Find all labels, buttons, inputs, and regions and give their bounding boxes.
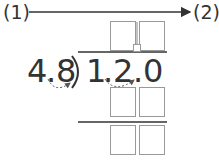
dividend-decimal-point-original: . bbox=[103, 55, 113, 87]
dividend-decimal-point-shifted: . bbox=[133, 55, 143, 87]
divisor-digit-8: 8 bbox=[56, 55, 76, 87]
quotient-box-2[interactable] bbox=[139, 21, 165, 51]
quotient-decimal-box[interactable] bbox=[133, 44, 141, 52]
product-box-2[interactable] bbox=[139, 87, 165, 117]
remainder-box-2[interactable] bbox=[139, 125, 165, 155]
dividend-digit-0: 0 bbox=[143, 55, 163, 87]
flow-start-label: (1) bbox=[3, 3, 30, 22]
divisor-digit-4: 4 bbox=[27, 55, 47, 87]
dividend-digit-2: 2 bbox=[113, 55, 133, 87]
flow-end-label: (2) bbox=[193, 3, 219, 22]
product-box-1[interactable] bbox=[110, 87, 136, 117]
remainder-box-1[interactable] bbox=[110, 125, 136, 155]
divisor-decimal-point: . bbox=[46, 55, 56, 87]
